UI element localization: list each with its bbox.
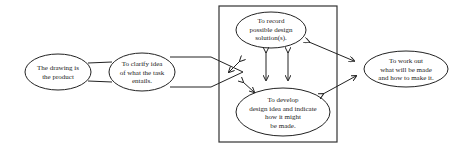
node-product-label: The drawing is the product [25,64,91,81]
double-arrow-icon [309,42,354,61]
node-record-label: To record possible design solution(s). [236,17,306,43]
double-arrow-icon [243,82,254,92]
node-clarify-label: To clarify idea of what the task entails… [109,60,175,86]
funnel-arrow-shape [170,57,243,87]
node-develop-label: To develop design idea and indicate how … [236,96,330,130]
double-arrow-icon [323,76,356,94]
node-workout-label: To work out what will be made and how to… [364,57,448,83]
